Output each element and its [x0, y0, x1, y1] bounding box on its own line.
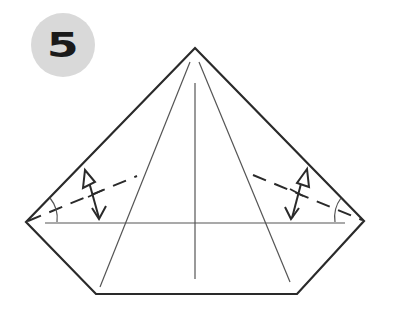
origami-diagram [0, 0, 397, 320]
